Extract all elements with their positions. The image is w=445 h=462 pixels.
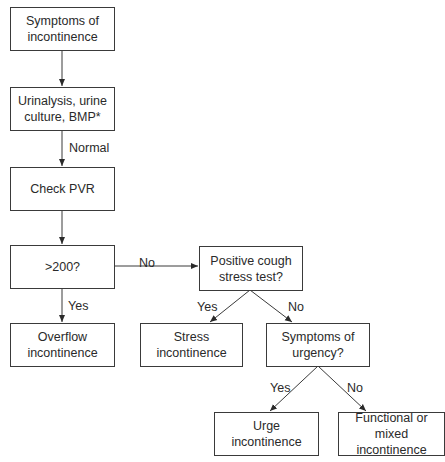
node-check-pvr: Check PVR: [10, 167, 115, 211]
node-label: Functional or mixed incontinence: [343, 410, 440, 458]
node-cough-stress-test: Positive cough stress test?: [199, 246, 303, 291]
node-stress-incontinence: Stress incontinence: [140, 323, 243, 367]
node-label: Positive cough stress test?: [204, 253, 298, 285]
node-functional-mixed: Functional or mixed incontinence: [338, 412, 445, 456]
node-label: Symptoms of urgency?: [271, 329, 365, 361]
node-pvr-gt-200: >200?: [10, 245, 115, 289]
node-label: Urinalysis, urine culture, BMP*: [15, 93, 110, 125]
edge-label-gt200-no: No: [139, 256, 155, 270]
edge-label-urgency-yes: Yes: [270, 381, 290, 395]
node-label: Symptoms of incontinence: [15, 13, 110, 45]
node-symptoms-of-incontinence: Symptoms of incontinence: [10, 7, 115, 51]
node-overflow-incontinence: Overflow incontinence: [10, 323, 115, 367]
node-label: Urge incontinence: [219, 418, 314, 450]
edge-label-cough-no: No: [288, 300, 304, 314]
node-urge-incontinence: Urge incontinence: [214, 412, 319, 456]
edge-label-urgency-no: No: [347, 381, 363, 395]
node-label: Stress incontinence: [145, 329, 238, 361]
node-label: Check PVR: [30, 181, 95, 197]
node-symptoms-of-urgency: Symptoms of urgency?: [266, 323, 370, 367]
node-urinalysis: Urinalysis, urine culture, BMP*: [10, 87, 115, 131]
node-label: Overflow incontinence: [15, 329, 110, 361]
edge-label-cough-yes: Yes: [197, 300, 217, 314]
edge-label-gt200-yes: Yes: [68, 299, 88, 313]
node-label: >200?: [45, 259, 80, 275]
connector-lines: [0, 0, 445, 462]
edge-label-normal: Normal: [69, 141, 109, 155]
